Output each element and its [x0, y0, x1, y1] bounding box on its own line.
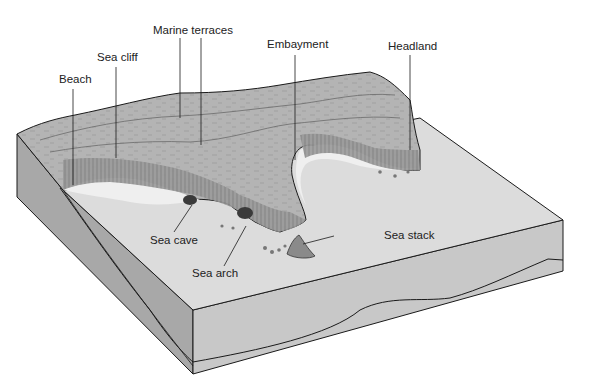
label-headland: Headland: [388, 41, 437, 53]
sea-cave-opening: [183, 195, 197, 205]
label-embayment: Embayment: [267, 39, 328, 51]
label-beach: Beach: [59, 74, 92, 86]
label-sea-stack: Sea stack: [384, 230, 435, 242]
label-sea-cave: Sea cave: [150, 235, 198, 247]
label-sea-cliff: Sea cliff: [97, 52, 138, 64]
label-sea-arch: Sea arch: [192, 268, 238, 280]
coastal-landforms-diagram: [0, 0, 604, 392]
label-marine-terraces: Marine terraces: [153, 25, 233, 37]
sea-arch-opening: [237, 207, 253, 219]
